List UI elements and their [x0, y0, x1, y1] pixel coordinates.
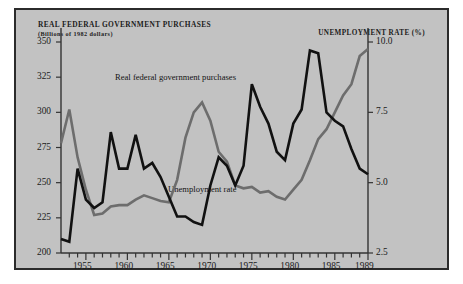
left-axis-tick-label-250: 250 — [21, 177, 51, 187]
left-axis-tick-label-350: 350 — [21, 36, 51, 46]
left-axis-tick-label-275: 275 — [21, 142, 51, 152]
right-axis-tick-label-5.0: 5.0 — [376, 177, 388, 187]
right-axis-tick-label-7.5: 7.5 — [376, 106, 388, 116]
x-axis-tick-label-1955: 1955 — [73, 261, 92, 271]
left-axis-tick-label-200: 200 — [21, 247, 51, 257]
right-axis-tick-label-2.5: 2.5 — [376, 247, 388, 257]
left-axis-tick-label-300: 300 — [21, 106, 51, 116]
left-axis-tick-label-325: 325 — [21, 71, 51, 81]
x-axis-tick-label-1960: 1960 — [114, 261, 133, 271]
x-axis-tick-label-1980: 1980 — [280, 261, 299, 271]
right-axis-tick-label-10.0: 10.0 — [376, 36, 392, 46]
series-line-unemployment — [61, 50, 368, 241]
x-axis-tick-label-1970: 1970 — [197, 261, 216, 271]
x-axis-tick-label-1989: 1989 — [355, 261, 374, 271]
x-axis-tick-label-1975: 1975 — [239, 261, 258, 271]
x-axis-tick-label-1965: 1965 — [156, 261, 175, 271]
chart-figure: REAL FEDERAL GOVERNMENT PURCHASES (Billi… — [14, 8, 449, 270]
left-axis-tick-label-225: 225 — [21, 212, 51, 222]
chart-plot-area — [16, 10, 451, 272]
x-axis-tick-label-1985: 1985 — [322, 261, 341, 271]
